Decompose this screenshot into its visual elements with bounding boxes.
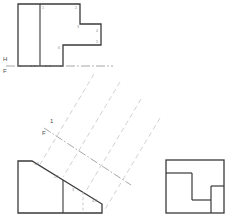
front-view-vertex-label-1: 1,6 bbox=[34, 163, 39, 167]
auxiliary-plane-label-1: 1 bbox=[50, 118, 53, 124]
projection-ray-2 bbox=[63, 82, 120, 177]
top-view-vertex-label-3: 3 bbox=[77, 26, 79, 30]
projection-ray-4 bbox=[104, 118, 160, 211]
engineering-drawing-sheet: H F 1 F 1 2 3 4 5 6 1,6 2,5 3 4,3 bbox=[0, 0, 233, 224]
front-view-geometry bbox=[18, 161, 102, 213]
front-view-vertex-label-4: 4,3 bbox=[92, 200, 97, 204]
side-view-geometry bbox=[166, 160, 224, 213]
top-view-vertex-label-1: 1 bbox=[42, 7, 44, 11]
top-view-vertex-label-2: 2 bbox=[75, 7, 77, 11]
reference-plane-label-h: H bbox=[3, 56, 7, 62]
drawing-canvas bbox=[0, 0, 233, 224]
auxiliary-plane-label-f: F bbox=[42, 130, 46, 136]
top-view-vertex-label-6: 6 bbox=[58, 47, 60, 51]
reference-plane-label-f: F bbox=[3, 68, 7, 74]
top-view-outline bbox=[18, 4, 101, 66]
front-view-vertex-label-2: 2,5 bbox=[54, 176, 59, 180]
top-view-vertex-label-4: 4 bbox=[96, 30, 98, 34]
projection-ray-1 bbox=[39, 74, 94, 166]
top-view-vertex-label-5: 5 bbox=[96, 41, 98, 45]
auxiliary-projection-rays-group bbox=[39, 74, 160, 211]
top-view-geometry bbox=[18, 4, 101, 66]
projection-ray-3 bbox=[86, 99, 141, 191]
front-view-vertex-label-3: 3 bbox=[72, 189, 74, 193]
front-view-outline bbox=[18, 161, 102, 213]
